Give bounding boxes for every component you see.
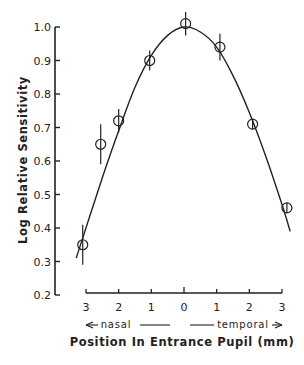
x-tick-label: 2: [246, 301, 253, 314]
y-tick-label: 0.3: [34, 256, 52, 269]
data-point: [181, 12, 191, 35]
x-axis: 3210123: [83, 287, 286, 314]
data-point: [282, 203, 292, 213]
data-point: [114, 109, 124, 132]
data-point: [78, 225, 88, 265]
data-point: [96, 124, 106, 164]
fitted-curve: [76, 27, 290, 258]
y-axis: 0.20.30.40.50.60.70.80.91.0: [34, 21, 61, 302]
y-tick-label: 1.0: [34, 21, 52, 34]
open-circle-marker: [181, 19, 191, 29]
x-tick-label: 1: [148, 301, 155, 314]
x-tick-label: 2: [115, 301, 122, 314]
open-circle-marker: [78, 240, 88, 250]
open-circle-marker: [114, 116, 124, 126]
chart: 0.20.30.40.50.60.70.80.91.0 3210123 Log …: [0, 0, 304, 365]
x-tick-label: 3: [83, 301, 90, 314]
open-circle-marker: [282, 203, 292, 213]
open-circle-marker: [248, 119, 258, 129]
y-tick-label: 0.7: [34, 122, 52, 135]
y-tick-label: 0.6: [34, 155, 52, 168]
nasal-direction-label: nasal: [101, 319, 132, 330]
x-tick-label: 3: [279, 301, 286, 314]
y-tick-label: 0.2: [34, 289, 52, 302]
data-point: [248, 119, 258, 129]
y-axis-title: Log Relative Sensitivity: [16, 76, 30, 244]
x-tick-label: 1: [213, 301, 220, 314]
temporal-direction-label: temporal: [217, 319, 269, 330]
x-axis-title: Position In Entrance Pupil (mm): [70, 335, 295, 349]
y-tick-label: 0.9: [34, 55, 52, 68]
open-circle-marker: [96, 139, 106, 149]
y-tick-label: 0.5: [34, 189, 52, 202]
open-circle-marker: [145, 56, 155, 66]
open-circle-marker: [215, 42, 225, 52]
y-tick-label: 0.8: [34, 88, 52, 101]
x-tick-label: 0: [181, 301, 188, 314]
y-tick-label: 0.4: [34, 222, 52, 235]
